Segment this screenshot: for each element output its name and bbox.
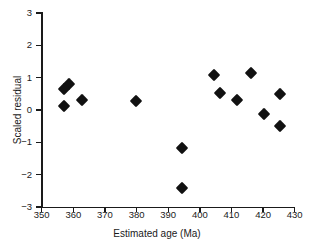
- data-point: [273, 120, 286, 133]
- y-tick--2: [36, 174, 41, 175]
- y-axis-line: [41, 12, 43, 208]
- y-tick-label--3: −3: [2, 202, 32, 212]
- y-tick-3: [36, 12, 41, 13]
- y-tick-0: [36, 109, 41, 110]
- data-point: [208, 69, 221, 82]
- x-tick-label-370: 370: [97, 210, 113, 220]
- y-axis-title: Scaled residual: [12, 50, 23, 170]
- data-point: [130, 94, 143, 107]
- x-tick-label-360: 360: [65, 210, 81, 220]
- y-tick-2: [36, 45, 41, 46]
- y-tick--1: [36, 142, 41, 143]
- data-point: [176, 141, 189, 154]
- x-tick-label-430: 430: [287, 210, 303, 220]
- data-point: [213, 86, 226, 99]
- data-point: [245, 66, 258, 79]
- scatter-chart: −3−2−10123 350360370380390400410420430 E…: [0, 0, 314, 249]
- y-tick-label-2: 2: [2, 41, 32, 51]
- y-tick-1: [36, 77, 41, 78]
- x-tick-label-410: 410: [224, 210, 240, 220]
- y-tick-label-3: 3: [2, 8, 32, 18]
- x-tick-label-420: 420: [255, 210, 271, 220]
- data-point: [58, 100, 71, 113]
- x-tick-label-390: 390: [160, 210, 176, 220]
- x-tick-label-350: 350: [34, 210, 50, 220]
- data-point: [258, 107, 271, 120]
- x-axis-title: Estimated age (Ma): [0, 228, 314, 239]
- data-point: [75, 94, 88, 107]
- data-point: [230, 94, 243, 107]
- y-tick-label--2: −2: [2, 170, 32, 180]
- x-tick-label-380: 380: [129, 210, 145, 220]
- data-point: [176, 181, 189, 194]
- x-tick-label-400: 400: [192, 210, 208, 220]
- data-point: [273, 88, 286, 101]
